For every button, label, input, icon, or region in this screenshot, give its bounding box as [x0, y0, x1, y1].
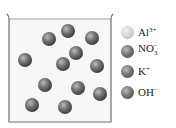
particle: [61, 24, 75, 38]
particle: [56, 57, 70, 71]
legend-item: OH−: [121, 84, 158, 100]
ion-sphere-icon: [121, 86, 134, 99]
legend-item: NO3−: [121, 43, 157, 59]
ion-sphere-icon: [121, 26, 134, 39]
ion-label: Al3+: [138, 26, 156, 38]
ion-sphere-icon: [121, 65, 134, 78]
particle: [71, 81, 85, 95]
particle: [42, 32, 56, 46]
ion-label: K+: [138, 65, 150, 77]
legend-item: K+: [121, 63, 150, 79]
particle: [85, 31, 99, 45]
particle: [93, 87, 107, 101]
particle: [58, 100, 72, 114]
particle: [18, 53, 32, 67]
ion-label: OH−: [138, 86, 158, 98]
particle: [69, 46, 83, 60]
ion-label: NO3−: [138, 42, 157, 59]
particle: [38, 78, 52, 92]
particle: [25, 98, 39, 112]
particle: [90, 59, 104, 73]
legend-item: Al3+: [121, 24, 156, 40]
ion-sphere-icon: [121, 45, 134, 58]
